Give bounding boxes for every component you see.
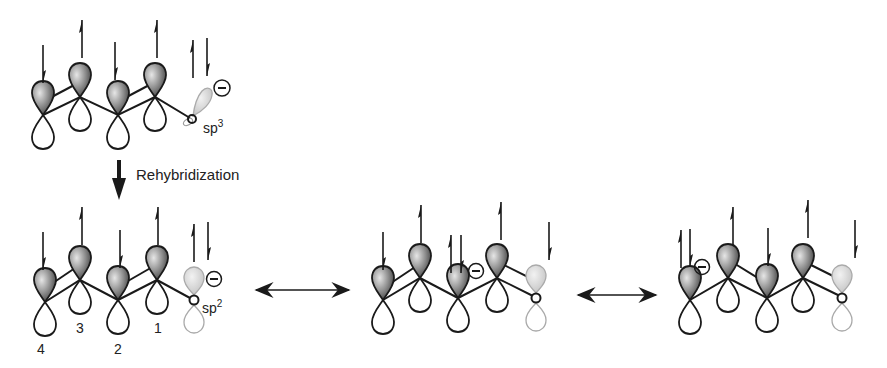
terminal-orbital: [832, 265, 852, 331]
p-orbitals: [679, 244, 814, 334]
negative-charge: [214, 80, 230, 96]
resonance-structure-1: sp2 4 3 2 1: [34, 207, 223, 357]
electron-spins: [678, 200, 858, 268]
atom-number-2: 2: [114, 341, 122, 357]
electron-spins: [43, 207, 211, 270]
negative-charge: [207, 272, 222, 287]
orbital-diagram: sp3 Rehybridization: [0, 0, 887, 368]
negative-charge: [695, 260, 710, 275]
rehybridization-label: Rehybridization: [136, 166, 239, 183]
atom-number-3: 3: [76, 320, 84, 336]
atom-number-1: 1: [154, 320, 162, 336]
terminal-orbital: [526, 265, 546, 331]
resonance-structure-2: [372, 202, 552, 334]
top-structure-sp3: sp3: [32, 20, 230, 149]
sp2-terminal-orbital: [184, 267, 204, 333]
negative-charge: [469, 264, 484, 279]
electron-spins: [383, 202, 552, 273]
resonance-structure-3: [678, 200, 858, 334]
electron-spins: [43, 20, 210, 83]
hybridization-label-sp3: sp3: [203, 118, 224, 136]
rehybridization-arrow: [112, 160, 126, 200]
atom-number-4: 4: [37, 341, 45, 357]
hybridization-label-sp2: sp2: [202, 298, 223, 316]
